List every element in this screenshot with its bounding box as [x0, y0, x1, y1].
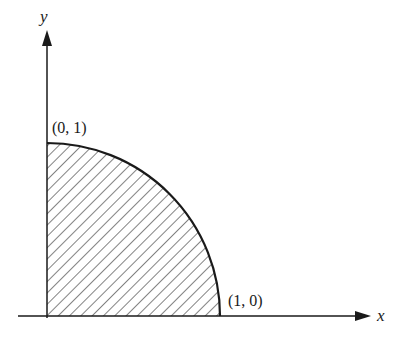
- y-axis-label: y: [38, 7, 48, 26]
- quarter-circle-diagram: y x (0, 1) (1, 0): [0, 0, 396, 353]
- x-axis-arrow-icon: [355, 311, 371, 321]
- x-axis-label: x: [376, 306, 385, 325]
- y-axis-arrow-icon: [42, 30, 52, 46]
- shaded-region: [47, 143, 220, 316]
- point-label-1-0: (1, 0): [228, 292, 263, 310]
- point-label-0-1: (0, 1): [52, 119, 87, 137]
